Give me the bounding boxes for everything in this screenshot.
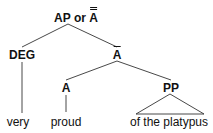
edge-root-abar bbox=[68, 24, 117, 47]
a-double-bar-label: A bbox=[89, 11, 98, 25]
syntax-tree-diagram: AP or A DEG A A PP very proud of the pla… bbox=[0, 0, 213, 133]
tree-edges bbox=[0, 0, 213, 133]
edge-abar-a bbox=[66, 61, 117, 80]
node-pp: PP bbox=[163, 81, 179, 95]
edge-abar-pp bbox=[117, 61, 171, 80]
a-bar-label: A bbox=[113, 48, 122, 62]
node-deg: DEG bbox=[9, 48, 35, 62]
pp-triangle bbox=[136, 94, 204, 114]
root-label-prefix: AP or bbox=[54, 11, 89, 25]
edge-root-deg bbox=[22, 24, 68, 47]
node-a-bar: A bbox=[113, 48, 122, 62]
leaf-proud: proud bbox=[51, 115, 82, 129]
leaf-very: very bbox=[7, 115, 30, 129]
root-node-ap: AP or A bbox=[54, 11, 98, 25]
node-a: A bbox=[62, 81, 71, 95]
leaf-of-the-platypus: of the platypus bbox=[130, 115, 208, 129]
